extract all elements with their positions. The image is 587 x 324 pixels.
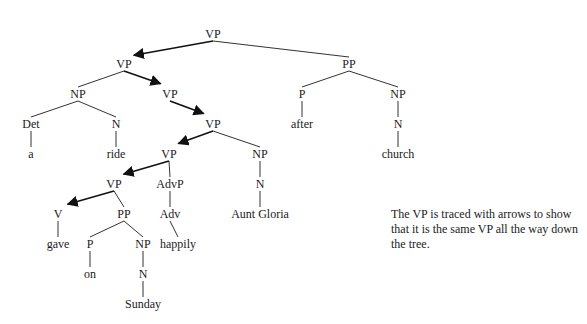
tree-edge	[349, 71, 398, 87]
tree-node-advp: AdvP	[156, 177, 184, 191]
tree-node-on: on	[84, 267, 96, 281]
tree-node-vp5: VP	[106, 177, 122, 191]
annotation-note: The VP is traced with arrows to show tha…	[391, 207, 581, 252]
tree-node-det: Det	[22, 117, 40, 131]
tree-node-adv: Adv	[160, 207, 181, 221]
trace-arrow	[68, 191, 114, 204]
syntax-tree: VPVPPPNPVPPNPDetNVPafterNarideVPNPchurch…	[0, 0, 587, 324]
trace-arrow	[124, 71, 161, 84]
tree-node-np4: NP	[135, 237, 151, 251]
tree-node-gave: gave	[47, 237, 70, 251]
tree-node-vp3: VP	[205, 117, 221, 131]
tree-edge	[90, 221, 124, 237]
tree-node-sunday: Sunday	[125, 297, 161, 311]
tree-node-vp1: VP	[116, 57, 132, 71]
trace-arrow	[178, 131, 213, 144]
tree-edge	[170, 221, 178, 237]
tree-node-n2: N	[394, 117, 403, 131]
tree-edge	[78, 71, 124, 87]
tree-node-a: a	[28, 147, 34, 161]
tree-node-church: church	[382, 147, 415, 161]
tree-node-vp2: VP	[162, 87, 178, 101]
tree-node-after: after	[291, 117, 313, 131]
tree-nodes: VPVPPPNPVPPNPDetNVPafterNarideVPNPchurch…	[22, 27, 414, 311]
trace-arrow	[170, 101, 204, 114]
tree-node-vp0: VP	[205, 27, 221, 41]
tree-node-happily: happily	[160, 237, 196, 251]
tree-node-np3: NP	[252, 147, 268, 161]
tree-node-np1: NP	[70, 87, 86, 101]
tree-node-n4: N	[139, 267, 148, 281]
tree-node-p2: P	[87, 237, 94, 251]
tree-edge	[213, 41, 349, 57]
tree-edges	[31, 41, 398, 297]
tree-edge	[114, 191, 124, 207]
tree-node-v: V	[54, 207, 63, 221]
tree-node-n3: N	[256, 177, 265, 191]
trace-arrow	[124, 161, 169, 174]
tree-edge	[302, 71, 349, 87]
tree-node-pp2: PP	[117, 207, 131, 221]
tree-edge	[124, 221, 143, 237]
tree-edge	[78, 101, 116, 117]
tree-edge	[169, 161, 170, 177]
tree-node-auntgloria: Aunt Gloria	[231, 207, 289, 221]
tree-node-ride: ride	[107, 147, 126, 161]
tree-node-vp4: VP	[161, 147, 177, 161]
tree-node-pp1: PP	[342, 57, 356, 71]
trace-arrow	[134, 41, 213, 55]
tree-node-p1: P	[299, 87, 306, 101]
tree-edge	[213, 131, 260, 147]
tree-edge	[31, 101, 78, 117]
tree-node-np2: NP	[390, 87, 406, 101]
tree-node-n1: N	[112, 117, 121, 131]
